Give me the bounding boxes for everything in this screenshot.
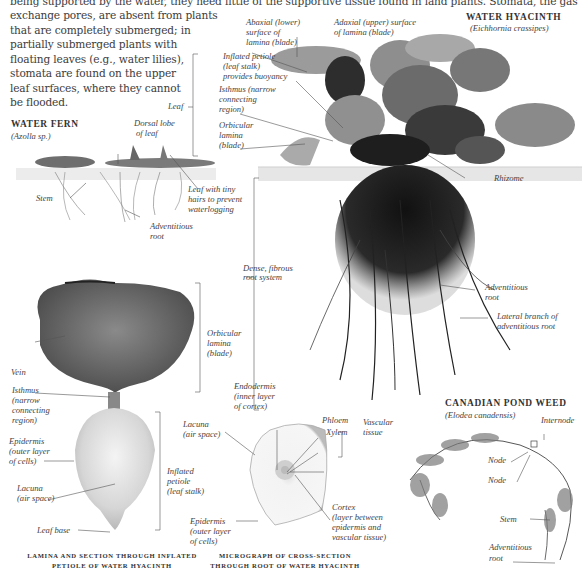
label-vein: Vein: [11, 368, 26, 378]
pond-weed-species: (Elodea canadensis): [445, 410, 515, 420]
water-hyacinth-title: WATER HYACINTH: [466, 12, 561, 22]
label-fern-stem: Stem: [36, 194, 53, 204]
label-internode: Internode: [541, 416, 574, 426]
water-hyacinth-leaves: [271, 34, 575, 166]
pond-weed-title: CANADIAN POND WEED: [445, 398, 567, 408]
label-node-2: Node: [488, 476, 506, 486]
label-pond-stem: Stem: [500, 515, 517, 525]
label-phloem: Phloem: [322, 416, 348, 426]
water-hyacinth-species: (Eichhornia crassipes): [470, 23, 549, 33]
water-fern-title: WATER FERN: [11, 119, 79, 129]
root-cross-section: [250, 424, 327, 525]
label-rhizome: Rhizome: [494, 174, 524, 184]
water-hyacinth-roots: [310, 165, 510, 400]
label-node-1: Node: [488, 456, 506, 466]
label-leaf-base: Leaf base: [37, 526, 70, 536]
label-leaf: Leaf: [168, 102, 183, 112]
water-fern-species: (Azolla sp.): [11, 131, 51, 141]
pond-weed-plant: [410, 433, 573, 560]
label-xylem: Xylem: [326, 428, 347, 438]
